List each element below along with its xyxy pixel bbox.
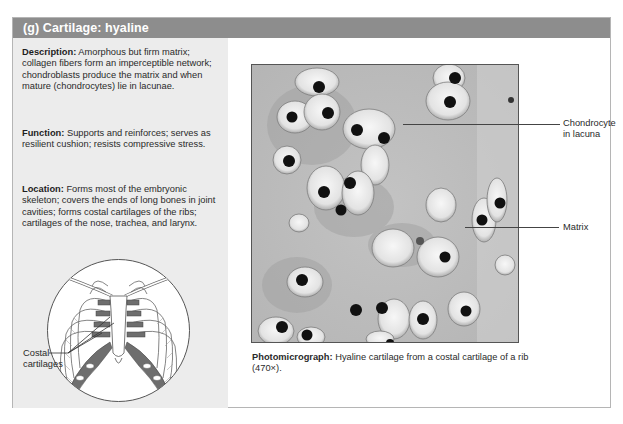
chondrocyte-label-line2: in lacuna: [563, 129, 616, 140]
caption-label: Photomicrograph:: [252, 352, 333, 362]
chondrocyte-label-line1: Chondrocyte: [563, 118, 616, 129]
chondrocyte-callout: Chondrocyte in lacuna: [563, 118, 616, 140]
micrograph-caption: Photomicrograph: Hyaline cartilage from …: [252, 352, 552, 375]
hyaline-cartilage-micrograph-icon: [251, 64, 519, 343]
matrix-label: Matrix: [563, 222, 588, 233]
matrix-leader-line: [465, 227, 559, 228]
chondrocyte-leader-line: [403, 124, 560, 125]
matrix-callout: Matrix: [563, 222, 588, 233]
